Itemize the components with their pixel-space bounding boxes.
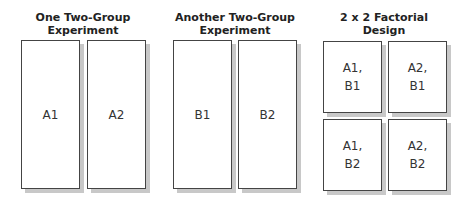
cell-label: A2, B1 [408, 59, 428, 95]
cell-a1-b2-box: A1, B2 [323, 119, 382, 191]
group-a2-box: A2 [87, 40, 146, 189]
title-line: 2 x 2 Factorial [316, 11, 452, 24]
group-b1-box: B1 [173, 40, 232, 189]
panel-title-factorial: 2 x 2 Factorial Design [316, 11, 452, 37]
panel-title-one-two-group: One Two-Group Experiment [15, 11, 151, 37]
cell-label: A1 [43, 106, 59, 124]
panel-title-another-two-group: Another Two-Group Experiment [164, 11, 306, 37]
group-b2-box: B2 [238, 40, 297, 189]
title-line: Experiment [164, 24, 306, 37]
title-line: Experiment [15, 24, 151, 37]
group-a1-box: A1 [21, 40, 80, 189]
cell-label: A2 [109, 106, 125, 124]
cell-label: B2 [260, 106, 276, 124]
cell-label: A2, B2 [408, 137, 428, 173]
cell-a2-b1-box: A2, B1 [388, 41, 447, 113]
title-line: One Two-Group [15, 11, 151, 24]
cell-label: B1 [195, 106, 211, 124]
title-line: Design [316, 24, 452, 37]
cell-label: A1, B1 [343, 59, 363, 95]
cell-a2-b2-box: A2, B2 [388, 119, 447, 191]
title-line: Another Two-Group [164, 11, 306, 24]
cell-label: A1, B2 [343, 137, 363, 173]
cell-a1-b1-box: A1, B1 [323, 41, 382, 113]
